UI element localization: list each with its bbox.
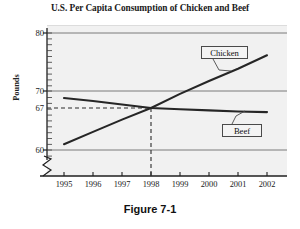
callout-leader-beef [232, 111, 245, 124]
figure-container: U.S. Per Capita Consumption of Chicken a… [0, 0, 300, 229]
callout-leader-chicken [213, 59, 231, 71]
figure-caption: Figure 7-1 [0, 203, 300, 215]
intersection-guides [47, 108, 151, 176]
series-label-beef: Beef [222, 124, 262, 137]
y-minor-ticks [47, 33, 52, 156]
chart-svg [0, 0, 300, 229]
series-label-chicken: Chicken [201, 46, 248, 59]
